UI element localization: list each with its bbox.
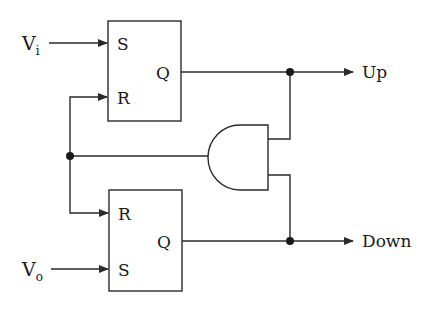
gate-input-top-wire <box>268 72 290 139</box>
up-label: Up <box>362 62 387 82</box>
junction-dot-down <box>286 237 294 245</box>
vo-label: Vo <box>21 258 43 284</box>
down-label: Down <box>362 231 411 251</box>
ff-bottom-q-label: Q <box>157 232 171 252</box>
reset-wire-bottom <box>70 156 108 213</box>
ff-bottom-s-label: S <box>118 260 130 280</box>
ff-top-s-label: S <box>117 34 129 54</box>
vi-label: Vi <box>21 32 40 58</box>
ff-bottom-r-label: R <box>118 204 132 224</box>
junction-dot-left <box>66 152 74 160</box>
gate-input-bottom-wire <box>268 175 290 241</box>
reset-wire-top <box>70 97 107 156</box>
circuit-diagram: Vi Vo S Q R R Q S Up Down <box>0 0 438 312</box>
junction-dot-up <box>286 68 294 76</box>
and-gate <box>208 125 268 190</box>
ff-top-r-label: R <box>117 88 131 108</box>
ff-top-q-label: Q <box>156 63 170 83</box>
